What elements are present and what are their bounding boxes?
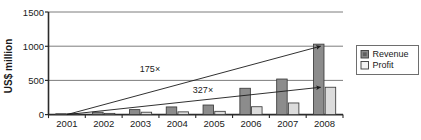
- legend: Revenue Profit: [357, 46, 419, 75]
- bar-profit-2006[interactable]: [252, 107, 263, 115]
- bar-group-2007: [277, 79, 299, 115]
- y-tick-label-1500: 1500: [23, 7, 44, 18]
- legend-swatch-revenue-inner: [363, 52, 367, 56]
- bar-revenue-2005[interactable]: [203, 105, 214, 115]
- bar-revenue-2002[interactable]: [93, 112, 104, 114]
- y-axis-tick-labels: 1500 1000 500 0: [23, 7, 44, 121]
- bar-revenue-2007[interactable]: [277, 79, 288, 115]
- bar-group-2006: [240, 88, 262, 114]
- bar-profit-2003[interactable]: [141, 112, 152, 114]
- legend-label-profit: Profit: [373, 60, 395, 70]
- x-label-2008: 2008: [314, 118, 335, 129]
- bar-revenue-2001[interactable]: [56, 114, 66, 115]
- x-label-2005: 2005: [204, 118, 225, 129]
- x-label-2004: 2004: [167, 118, 188, 129]
- bar-group-2004: [166, 107, 188, 115]
- bar-group-2005: [203, 105, 225, 115]
- y-axis-title: US$ million: [3, 39, 14, 93]
- legend-label-revenue: Revenue: [373, 49, 409, 59]
- x-label-2002: 2002: [93, 118, 114, 129]
- bar-chart: US$ million 1500 1000 500 0 200120022003…: [0, 0, 421, 140]
- chart-container: US$ million 1500 1000 500 0 200120022003…: [0, 0, 421, 140]
- bar-profit-2007[interactable]: [288, 103, 299, 115]
- bar-groups: [56, 44, 336, 114]
- x-label-2001: 2001: [56, 118, 77, 129]
- bar-revenue-2004[interactable]: [166, 107, 177, 115]
- y-tick-label-1000: 1000: [23, 41, 44, 52]
- annotation-label-1: 327×: [193, 85, 213, 95]
- bar-profit-2002[interactable]: [104, 113, 115, 114]
- y-tick-label-500: 500: [28, 75, 44, 86]
- legend-item-profit[interactable]: Profit: [361, 60, 394, 70]
- bar-profit-2004[interactable]: [178, 112, 189, 115]
- bar-revenue-2003[interactable]: [129, 110, 140, 115]
- x-label-2007: 2007: [277, 118, 298, 129]
- bar-group-2008: [313, 44, 335, 114]
- gridlines: [49, 12, 344, 80]
- legend-swatch-profit: [361, 62, 369, 70]
- y-tick-label-0: 0: [39, 109, 44, 120]
- bar-profit-2008[interactable]: [325, 87, 336, 114]
- x-label-2003: 2003: [130, 118, 151, 129]
- x-axis-category-labels: 20012002200320042005200620072008: [56, 118, 335, 129]
- y-axis-title-label: US$ million: [3, 39, 14, 93]
- bar-profit-2005[interactable]: [215, 111, 226, 114]
- legend-item-revenue[interactable]: Revenue: [361, 49, 409, 59]
- bar-revenue-2008[interactable]: [313, 44, 324, 114]
- annotation-label-0: 175×: [140, 64, 160, 74]
- x-label-2006: 2006: [240, 118, 261, 129]
- bar-revenue-2006[interactable]: [240, 88, 251, 114]
